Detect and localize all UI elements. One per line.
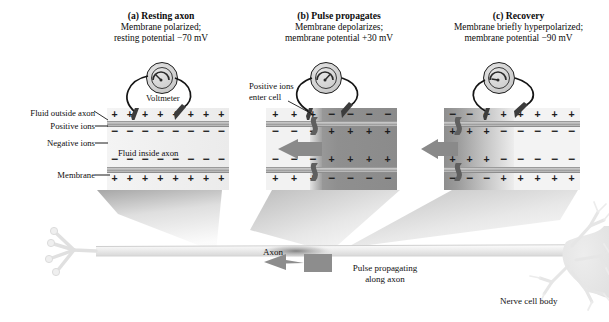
negative-charge: − — [563, 127, 580, 136]
panel-c-title: (c) Recovery — [428, 10, 609, 22]
negative-charge: − — [285, 127, 304, 136]
negative-charge: − — [512, 155, 529, 164]
positive-charge: + — [285, 174, 304, 183]
positive-charge: + — [546, 110, 563, 119]
pulse-propagating-label: Pulse propagating along axon — [330, 263, 440, 285]
positive-charge: + — [322, 127, 341, 136]
positive-charge: + — [322, 155, 341, 164]
negative-charge: − — [322, 174, 341, 183]
callout-positive-ions-enter-cell: Positive ions enter cell — [249, 81, 294, 103]
panel-c-membrane-diagram: −−−+++++ +++−−−−− +++−−−−− −−−+++++ — [444, 108, 580, 190]
negative-charge: − — [183, 127, 198, 136]
leader-positive-ions-enter-cell — [288, 99, 318, 117]
panel-c-sub-2: membrane potential −90 mV — [428, 33, 609, 45]
positive-charge: + — [341, 127, 360, 136]
positive-charge: + — [378, 155, 397, 164]
negative-charge: − — [153, 127, 168, 136]
panel-c-voltmeter-leads — [455, 68, 545, 120]
panel-b-inner-top-charges: −−−++++ — [266, 127, 397, 136]
positive-charge: + — [122, 174, 137, 183]
callout-fluid-inside-axon: Fluid inside axon — [118, 148, 178, 158]
positive-charge: + — [512, 174, 529, 183]
positive-charge: + — [183, 174, 198, 183]
positive-charge: + — [214, 110, 229, 119]
leader-membrane — [95, 173, 111, 177]
callout-fluid-outside-axon: Fluid outside axon — [0, 108, 95, 118]
negative-charge: − — [107, 127, 122, 136]
negative-charge: − — [341, 174, 360, 183]
callout-membrane: Membrane — [0, 170, 95, 180]
negative-charge: − — [360, 174, 379, 183]
callout-positive-ions: Positive ions — [0, 121, 95, 131]
positive-charge: + — [168, 174, 183, 183]
panel-a-heading: (a) Resting axon Membrane polarized; res… — [66, 10, 256, 45]
negative-charge: − — [563, 155, 580, 164]
panel-b-title: (b) Pulse propagates — [249, 10, 429, 22]
negative-charge: − — [266, 127, 285, 136]
leader-negative-ions — [95, 141, 109, 145]
panel-a-outer-bottom-charges: ++++++++ — [107, 174, 229, 183]
negative-charge: − — [214, 127, 229, 136]
positive-charge: + — [478, 127, 495, 136]
positive-charge: + — [563, 174, 580, 183]
panel-c-heading: (c) Recovery Membrane briefly hyperpolar… — [428, 10, 609, 45]
negative-charge: − — [138, 127, 153, 136]
leader-positive-ions — [95, 124, 109, 128]
axon-terminals — [52, 233, 96, 270]
panel-b-sub-1: Membrane depolarizes; — [249, 22, 429, 34]
voltmeter-label: Voltmeter — [146, 93, 180, 103]
negative-charge: − — [529, 127, 546, 136]
negative-charge: − — [546, 127, 563, 136]
negative-charge: − — [495, 155, 512, 164]
panel-b-sub-2: membrane potential +30 mV — [249, 33, 429, 45]
negative-charge: − — [122, 127, 137, 136]
panel-connector-cones — [97, 190, 578, 252]
panel-a-sub-2: resting potential −70 mV — [66, 33, 256, 45]
panel-c-propagation-arrow — [420, 138, 460, 160]
panel-b-membrane-diagram: +++−−−− −−−++++ −−−++++ +++−−−− — [266, 108, 397, 190]
negative-charge: − — [478, 174, 495, 183]
negative-charge: − — [199, 155, 214, 164]
callout-pie-line-1: Positive ions — [249, 81, 294, 91]
positive-charge: + — [138, 174, 153, 183]
panel-b-propagation-arrow — [276, 138, 324, 160]
positive-charge: + — [546, 174, 563, 183]
panel-a-title: (a) Resting axon — [66, 10, 256, 22]
panel-c-sub-1: Membrane briefly hyperpolarized; — [428, 22, 609, 34]
panel-b-outer-bottom-charges: +++−−−− — [266, 174, 397, 183]
positive-charge: + — [341, 155, 360, 164]
positive-charge: + — [360, 127, 379, 136]
negative-charge: − — [378, 174, 397, 183]
leader-fluid-outside-axon — [93, 108, 113, 124]
negative-charge: − — [214, 155, 229, 164]
pulse-label-line-1: Pulse propagating — [353, 263, 418, 273]
panel-b-ion-channel-bottom-icon — [306, 163, 324, 181]
positive-charge: + — [478, 155, 495, 164]
negative-charge: − — [199, 127, 214, 136]
negative-charge: − — [495, 127, 512, 136]
positive-charge: + — [378, 127, 397, 136]
callout-negative-ions: Negative ions — [0, 138, 95, 148]
panel-c-ion-channel-bottom-icon — [450, 163, 468, 181]
panel-a-inner-top-charges: −−−−−−−− — [107, 127, 229, 136]
negative-charge: − — [546, 155, 563, 164]
axon-label: Axon — [263, 247, 283, 257]
pulse-label-line-2: along axon — [365, 274, 405, 284]
positive-charge: + — [495, 174, 512, 183]
positive-charge: + — [563, 110, 580, 119]
negative-charge: − — [512, 127, 529, 136]
panel-b-heading: (b) Pulse propagates Membrane depolarize… — [249, 10, 429, 45]
positive-charge: + — [153, 174, 168, 183]
positive-charge: + — [214, 174, 229, 183]
nerve-cell-body-label: Nerve cell body — [500, 296, 557, 306]
negative-charge: − — [378, 110, 397, 119]
figure-canvas: Axon Pulse propagating along axon Nerve … — [0, 0, 609, 322]
positive-charge: + — [529, 174, 546, 183]
negative-charge: − — [183, 155, 198, 164]
positive-charge: + — [360, 155, 379, 164]
positive-charge: + — [266, 174, 285, 183]
panel-a-sub-1: Membrane polarized; — [66, 22, 256, 34]
panel-a-membrane-bottom — [107, 167, 229, 173]
positive-charge: + — [199, 174, 214, 183]
callout-pie-line-2: enter cell — [249, 92, 281, 102]
